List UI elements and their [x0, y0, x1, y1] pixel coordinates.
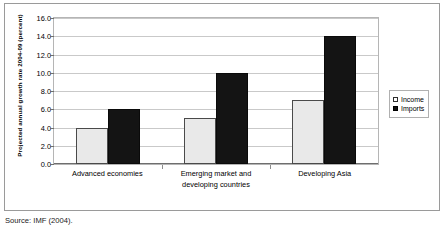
bar-group	[270, 18, 378, 164]
y-axis-tick-label: 8.0	[19, 87, 51, 96]
category-label-0: Advanced economies	[53, 169, 162, 180]
bar-imports-2	[324, 36, 356, 164]
bar-group	[162, 18, 270, 164]
plot-area	[53, 17, 379, 165]
chart-legend: IncomeImports	[389, 90, 429, 118]
legend-label: Imports	[401, 105, 424, 112]
source-caption: Source: IMF (2004).	[5, 216, 73, 225]
y-axis-tick-label: 2.0	[19, 141, 51, 150]
y-axis-tick-label: 12.0	[19, 50, 51, 59]
bar-imports-1	[216, 73, 248, 164]
y-axis-tick-label: 14.0	[19, 32, 51, 41]
chart-figure-frame: Projected annual growth rate 2004-09 (pe…	[4, 3, 440, 211]
category-label-line: developing countries	[162, 180, 271, 191]
category-label-line: Developing Asia	[270, 169, 379, 180]
x-axis-category-labels: Advanced economiesEmerging market anddev…	[53, 169, 379, 203]
income-swatch	[393, 97, 398, 102]
y-axis-tick-label: 16.0	[19, 14, 51, 23]
y-axis-tick-label: 0.0	[19, 160, 51, 169]
bar-income-1	[184, 118, 216, 164]
y-axis-tick-labels: 0.02.04.06.08.010.012.014.016.0	[19, 17, 51, 165]
bar-income-2	[292, 100, 324, 164]
legend-item-imports: Imports	[393, 104, 424, 113]
bar-income-0	[76, 128, 108, 165]
y-axis-tick-mark	[50, 164, 54, 165]
y-axis-tick-label: 10.0	[19, 68, 51, 77]
y-axis-tick-label: 6.0	[19, 105, 51, 114]
category-label-line: Emerging market and	[162, 169, 271, 180]
bar-imports-0	[108, 109, 140, 164]
y-axis-tick-label: 4.0	[19, 123, 51, 132]
legend-item-income: Income	[393, 95, 424, 104]
category-label-2: Developing Asia	[270, 169, 379, 180]
imports-swatch	[393, 106, 398, 111]
legend-label: Income	[401, 96, 424, 103]
x-axis-tick-mark	[270, 165, 271, 169]
category-label-1: Emerging market anddeveloping countries	[162, 169, 271, 190]
category-label-line: Advanced economies	[53, 169, 162, 180]
bar-group	[54, 18, 162, 164]
x-axis-tick-mark	[162, 165, 163, 169]
